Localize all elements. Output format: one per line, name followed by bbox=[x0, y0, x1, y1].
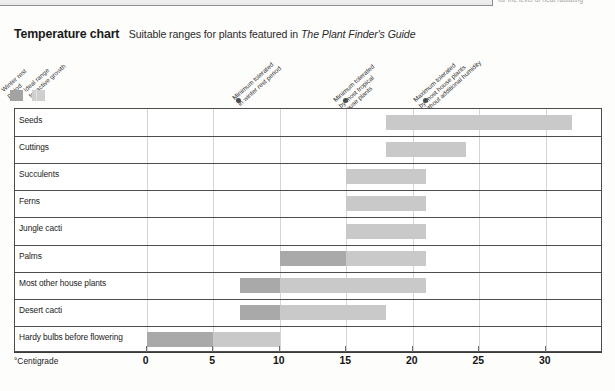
bar-winter-rest bbox=[240, 305, 280, 320]
title-main: Temperature chart bbox=[14, 27, 119, 41]
axis-tick-label-25: 25 bbox=[472, 355, 484, 366]
title-subtitle-text: Suitable ranges for plants featured in bbox=[129, 28, 298, 40]
x-axis-label: °Centigrade bbox=[14, 356, 58, 366]
axis-tick-25 bbox=[478, 346, 479, 352]
bar-ideal-range bbox=[346, 196, 426, 211]
axis-tick-label-20: 20 bbox=[406, 355, 418, 366]
annotation-label-2: Maximum toleratedby most house plantswit… bbox=[412, 48, 483, 115]
row-label-hardy-bulbs-before-flowering: Hardy bulbs before flowering bbox=[19, 332, 123, 342]
row-label-jungle-cacti: Jungle cacti bbox=[19, 223, 62, 233]
gridline-25 bbox=[479, 109, 480, 351]
title-subtitle: Suitable ranges for plants featured in T… bbox=[129, 28, 416, 40]
row-divider bbox=[15, 299, 601, 300]
axis-tick-label-15: 15 bbox=[339, 355, 351, 366]
bar-ideal-range bbox=[386, 142, 466, 157]
axis-tick-0 bbox=[146, 346, 147, 352]
axis-tick-label-5: 5 bbox=[209, 355, 215, 366]
row-divider bbox=[15, 272, 601, 273]
legend-swatch-dark bbox=[10, 90, 23, 101]
x-axis-line bbox=[14, 352, 602, 353]
annotation-marker-dot-2 bbox=[423, 98, 428, 103]
axis-tick-5 bbox=[212, 346, 213, 352]
axis-tick-20 bbox=[412, 346, 413, 352]
annotation-marker-dot-1 bbox=[343, 98, 348, 103]
row-label-cuttings: Cuttings bbox=[19, 142, 49, 152]
row-label-ferns: Ferns bbox=[19, 196, 40, 206]
chart-plot-area: SeedsCuttingsSucculentsFernsJungle cacti… bbox=[14, 108, 602, 352]
bar-ideal-range bbox=[386, 115, 572, 130]
bar-winter-rest bbox=[147, 332, 214, 347]
row-label-seeds: Seeds bbox=[19, 115, 42, 125]
axis-tick-label-10: 10 bbox=[273, 355, 285, 366]
row-label-palms: Palms bbox=[19, 251, 42, 261]
temperature-chart-page: for the level of heat radiating Temperat… bbox=[0, 0, 615, 391]
bar-winter-rest bbox=[240, 278, 280, 293]
bar-ideal-range bbox=[346, 169, 426, 184]
row-divider bbox=[15, 163, 601, 164]
row-divider bbox=[15, 217, 601, 218]
bar-ideal-range bbox=[346, 224, 426, 239]
row-divider bbox=[15, 245, 601, 246]
row-divider bbox=[15, 326, 601, 327]
legend-swatch-light bbox=[32, 90, 45, 101]
row-divider bbox=[15, 190, 601, 191]
row-label-most-other-house-plants: Most other house plants bbox=[19, 278, 106, 288]
page-fragment-text: for the level of heat radiating bbox=[498, 0, 583, 3]
axis-tick-15 bbox=[345, 346, 346, 352]
axis-tick-10 bbox=[279, 346, 280, 352]
bar-winter-rest bbox=[280, 251, 347, 266]
axis-tick-label-0: 0 bbox=[143, 355, 149, 366]
title-subtitle-source: The Plant Finder's Guide bbox=[301, 28, 415, 40]
bar-ideal-range bbox=[280, 278, 426, 293]
gridline-5 bbox=[213, 109, 214, 351]
gridline-0 bbox=[147, 109, 148, 351]
axis-tick-30 bbox=[545, 346, 546, 352]
bar-ideal-range bbox=[346, 251, 426, 266]
page-title: Temperature chart Suitable ranges for pl… bbox=[14, 24, 415, 42]
row-label-succulents: Succulents bbox=[19, 169, 59, 179]
gridline-30 bbox=[546, 109, 547, 351]
bar-ideal-range bbox=[280, 305, 386, 320]
bar-ideal-range bbox=[213, 332, 280, 347]
annotation-label-1: Minimum toleratedby most tropicalhouse p… bbox=[332, 63, 386, 115]
axis-tick-label-30: 30 bbox=[539, 355, 551, 366]
row-label-desert-cacti: Desert cacti bbox=[19, 305, 62, 315]
row-divider bbox=[15, 136, 601, 137]
page-fragment-box bbox=[0, 0, 493, 6]
